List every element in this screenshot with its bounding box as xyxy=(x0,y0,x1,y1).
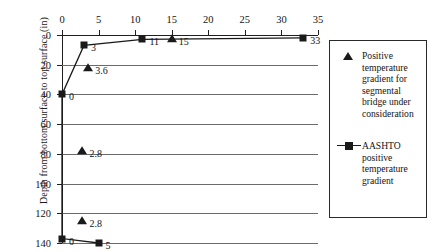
square-marker-icon xyxy=(345,142,353,150)
x-tick-label: 30 xyxy=(276,14,287,25)
y-tick-label: 120 xyxy=(35,208,51,219)
y-tick-label: 20 xyxy=(41,59,52,70)
x-tick-label: 35 xyxy=(313,14,324,25)
data-point-label: 3 xyxy=(91,42,96,53)
x-tick-label: 15 xyxy=(166,14,177,25)
data-point-label: 3.6 xyxy=(95,64,108,75)
x-tick-label: 10 xyxy=(130,14,141,25)
x-tick-label: 5 xyxy=(96,14,101,25)
square-data-point xyxy=(80,42,87,49)
chart-figure: Depth from bottom surface to top surface… xyxy=(0,0,446,252)
y-tick-label: 140 xyxy=(35,238,51,249)
data-point-label: 15 xyxy=(179,36,189,47)
legend-key-line-square xyxy=(336,140,362,152)
triangle-data-point xyxy=(77,216,87,224)
plot-area: 05101520253035 020406080100120140 331130… xyxy=(62,35,318,243)
triangle-marker-icon xyxy=(343,52,353,60)
legend-label-segmental-bridge: Positive temperature gradient for segmen… xyxy=(362,50,426,120)
triangle-data-point xyxy=(83,63,93,71)
legend-label-aashto: AASHTO positive temperature gradient xyxy=(362,140,426,186)
triangle-data-point xyxy=(167,35,177,43)
square-data-point xyxy=(300,34,307,41)
chart-legend: Positive temperature gradient for segmen… xyxy=(329,40,427,218)
y-tick-label: 40 xyxy=(41,89,52,100)
y-tick-label: 60 xyxy=(41,119,52,130)
y-tick-label: 80 xyxy=(41,148,52,159)
data-point-label: 0 xyxy=(69,91,74,102)
square-data-point xyxy=(139,36,146,43)
square-data-point xyxy=(59,235,66,242)
data-point-label: 0 xyxy=(69,235,74,246)
legend-key-triangle xyxy=(336,50,362,62)
data-point-label: 11 xyxy=(149,36,159,47)
x-tick-label: 20 xyxy=(203,14,214,25)
x-tick-label: 25 xyxy=(240,14,251,25)
legend-item-aashto: AASHTO positive temperature gradient xyxy=(336,140,426,186)
y-tick-label: 0 xyxy=(46,30,51,41)
triangle-data-point xyxy=(77,146,87,154)
data-point-label: 5 xyxy=(106,240,111,251)
x-tick-label: 0 xyxy=(59,14,64,25)
data-point-label: 33 xyxy=(310,34,320,45)
y-tick xyxy=(57,243,62,244)
y-tick-label: 100 xyxy=(35,178,51,189)
square-data-point xyxy=(95,240,102,247)
legend-item-segmental-bridge: Positive temperature gradient for segmen… xyxy=(336,50,426,120)
data-point-label: 2.8 xyxy=(89,217,102,228)
square-data-point xyxy=(59,91,66,98)
data-point-label: 2.8 xyxy=(89,147,102,158)
